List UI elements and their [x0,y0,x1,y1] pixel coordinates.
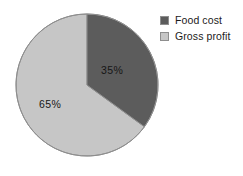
legend-swatch-dark-icon [160,16,169,25]
chart-legend: Food cost Gross profit [160,13,242,45]
legend-label-gross-profit: Gross profit [175,30,230,43]
gross-profit-slice-label: 65% [39,98,61,110]
pie-chart-figure: 35% 65% Food cost Gross profit [0,0,243,176]
food-cost-slice-label: 35% [101,64,123,76]
legend-swatch-light-icon [160,32,169,41]
legend-item-gross-profit[interactable]: Gross profit [160,29,242,44]
legend-item-food-cost[interactable]: Food cost [160,13,242,28]
legend-label-food-cost: Food cost [175,14,222,27]
